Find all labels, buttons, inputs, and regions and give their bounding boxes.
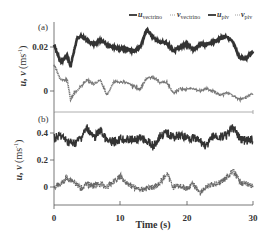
series-b-u bbox=[54, 124, 253, 150]
figure: uvectrino vvectrino upiv vpiv (a) 0.02 0… bbox=[0, 0, 270, 246]
xtick-0: 0 bbox=[52, 213, 57, 223]
panel-a-label: (a) bbox=[38, 22, 48, 32]
xtick-10: 10 bbox=[116, 213, 126, 223]
ytick-b-04: 0.4 bbox=[37, 128, 49, 138]
legend-u-piv: upiv bbox=[217, 10, 229, 20]
y-axis-label-a: u, v (ms-1) bbox=[17, 46, 29, 87]
series-a-v bbox=[54, 65, 253, 101]
series-b-v bbox=[54, 169, 253, 195]
panel-b-label: (b) bbox=[38, 114, 49, 124]
ytick-a-002: 0.02 bbox=[32, 42, 48, 52]
ytick-b-0: 0 bbox=[44, 182, 49, 192]
ytick-a-0: 0 bbox=[44, 86, 49, 96]
panel-a: (a) 0.02 0 bbox=[32, 22, 253, 112]
ytick-b-02: 0.2 bbox=[37, 155, 49, 165]
y-axis-label-b: u, v (ms-1) bbox=[13, 140, 25, 181]
legend: uvectrino vvectrino upiv vpiv bbox=[129, 10, 252, 20]
xtick-20: 20 bbox=[183, 213, 193, 223]
xtick-30: 30 bbox=[249, 213, 259, 223]
series-a-u bbox=[54, 30, 253, 68]
x-axis-label: Time (s) bbox=[135, 219, 170, 231]
legend-v-piv: vpiv bbox=[241, 10, 252, 20]
panel-b: (b) 0.4 0.2 0 0 10 20 30 Time (s) bbox=[37, 112, 258, 231]
legend-u-vectrino: uvectrino bbox=[138, 10, 162, 20]
legend-v-vectrino: vvectrino bbox=[177, 10, 200, 20]
